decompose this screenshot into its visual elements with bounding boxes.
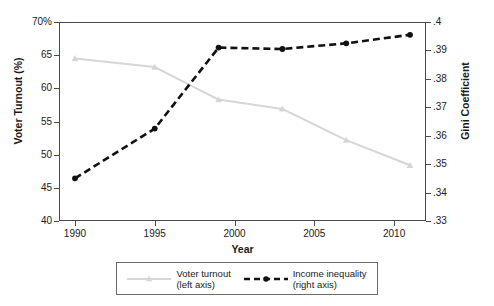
series-line — [75, 58, 410, 165]
y-tick-left — [54, 88, 59, 89]
y-tick-label-right: .34 — [433, 188, 447, 198]
y-tick-label-right: .38 — [433, 74, 447, 84]
x-tick — [75, 221, 76, 226]
y-tick-right — [426, 22, 431, 23]
series-line — [75, 35, 410, 179]
data-point-marker — [72, 175, 78, 181]
y-tick-label-left: 50 — [41, 150, 52, 160]
data-point-marker — [152, 126, 158, 132]
y-tick-right — [426, 79, 431, 80]
y-tick-right — [426, 50, 431, 51]
y-tick-label-right: .39 — [433, 45, 447, 55]
legend-label-line1: Income inequality — [293, 268, 367, 279]
y-tick-label-left: 55 — [41, 117, 52, 127]
x-tick — [155, 221, 156, 226]
y-tick-left — [54, 155, 59, 156]
y-axis-right-title: Gini Coefficient — [459, 41, 471, 161]
y-tick-label-left: 45 — [41, 183, 52, 193]
y-tick-left — [54, 55, 59, 56]
x-tick — [314, 221, 315, 226]
y-tick-left — [54, 221, 59, 222]
y-tick-label-right: .36 — [433, 131, 447, 141]
x-tick-label: 2010 — [374, 229, 414, 239]
y-tick-right — [426, 164, 431, 165]
data-point-marker — [343, 40, 349, 46]
legend-label-line1: Voter turnout — [176, 268, 230, 279]
plot-canvas — [59, 22, 426, 221]
x-tick-label: 2000 — [215, 229, 255, 239]
y-tick-label-left: 40 — [41, 216, 52, 226]
y-tick-label-right: .33 — [433, 216, 447, 226]
y-tick-left — [54, 188, 59, 189]
data-point-marker — [407, 32, 413, 38]
y-tick-left — [54, 22, 59, 23]
legend-label-line2: (right axis) — [293, 279, 367, 290]
x-tick-label: 2005 — [294, 229, 334, 239]
x-axis-title: Year — [59, 243, 426, 255]
chart-legend: Voter turnout (left axis) Income inequal… — [116, 262, 378, 295]
data-point-marker — [279, 46, 285, 52]
legend-item-voter-turnout: Voter turnout (left axis) — [127, 268, 230, 290]
legend-label-line2: (left axis) — [176, 279, 230, 290]
legend-swatch-voter-turnout — [127, 273, 171, 285]
series-voter-turnout — [72, 55, 414, 168]
series-income-inequality — [72, 32, 413, 181]
y-tick-right — [426, 193, 431, 194]
legend-label-income-inequality: Income inequality (right axis) — [293, 268, 367, 290]
y-tick-label-left: 60 — [41, 83, 52, 93]
y-tick-label-left: 65 — [41, 50, 52, 60]
x-tick — [235, 221, 236, 226]
y-tick-right — [426, 136, 431, 137]
y-tick-label-right: .4 — [433, 17, 441, 27]
legend-item-income-inequality: Income inequality (right axis) — [244, 268, 367, 290]
y-tick-label-right: .35 — [433, 159, 447, 169]
y-axis-left-title: Voter Turnout (%) — [12, 41, 24, 161]
x-tick-label: 1995 — [135, 229, 175, 239]
y-tick-label-right: .37 — [433, 102, 447, 112]
legend-label-voter-turnout: Voter turnout (left axis) — [176, 268, 230, 290]
x-tick — [394, 221, 395, 226]
legend-swatch-income-inequality — [244, 273, 288, 285]
y-tick-right — [426, 221, 431, 222]
data-point-marker — [216, 45, 222, 51]
x-tick-label: 1990 — [55, 229, 95, 239]
y-tick-right — [426, 107, 431, 108]
y-tick-label-left: 70% — [32, 17, 52, 27]
chart-figure: 40455055606570%.33.34.35.36.37.38.39.419… — [0, 0, 494, 306]
y-tick-left — [54, 122, 59, 123]
